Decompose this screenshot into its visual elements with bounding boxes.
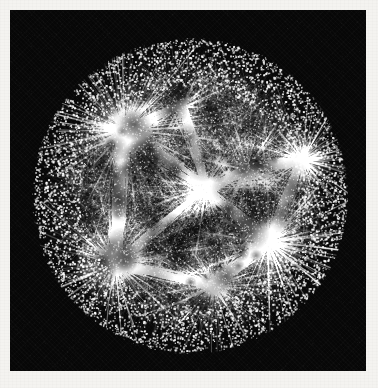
network-graph-canvas[interactable]	[10, 10, 366, 371]
figure-root	[0, 0, 378, 388]
graph-panel[interactable]	[10, 10, 366, 371]
figure-title	[10, 374, 366, 386]
